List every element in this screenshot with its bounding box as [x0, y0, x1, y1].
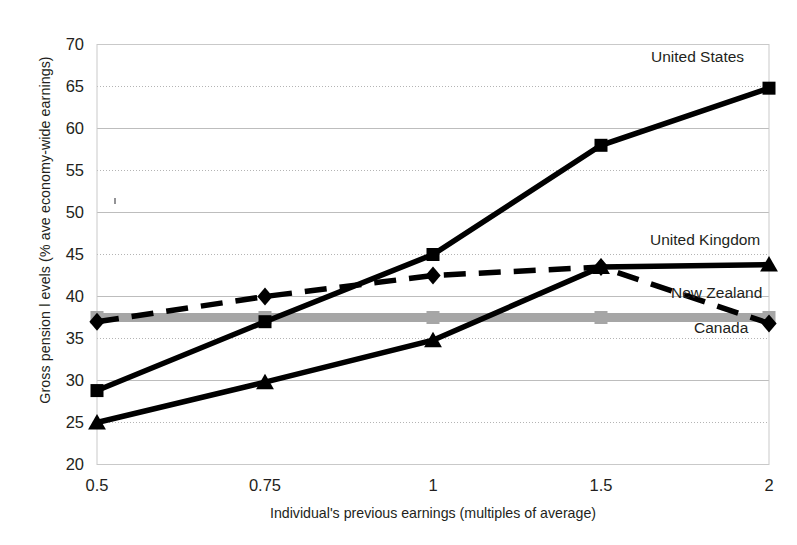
- data-point-1: [427, 311, 440, 324]
- data-point-0.75: [257, 288, 272, 306]
- series-new-zealand: [91, 311, 776, 324]
- series-label-united-kingdom: United Kingdom: [650, 232, 760, 248]
- data-point-1: [427, 248, 440, 261]
- data-point-1.5: [595, 139, 608, 152]
- data-point-0.75: [259, 315, 272, 328]
- data-point-0.5: [91, 384, 104, 397]
- chart-canvas: [0, 0, 797, 545]
- series-label-united-states: United States: [651, 49, 744, 65]
- data-point-1: [425, 267, 440, 285]
- data-point-2: [763, 82, 776, 95]
- data-point-1.5: [595, 311, 608, 324]
- series-label-canada: Canada: [694, 320, 748, 336]
- series-label-new-zealand: New Zealand: [671, 285, 762, 301]
- series-layer: [88, 82, 778, 430]
